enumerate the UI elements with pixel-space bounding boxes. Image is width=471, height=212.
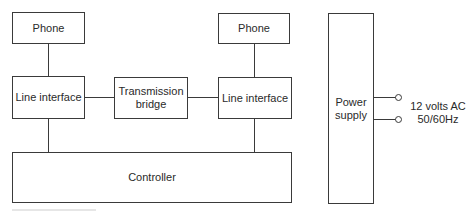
faint-underline-divider — [12, 209, 96, 211]
connector-phone-left-to-line-interface — [48, 44, 49, 76]
phone-right-box: Phone — [218, 13, 290, 44]
line-interface-left-box: Line interface — [12, 76, 85, 119]
phone-right-label: Phone — [238, 22, 270, 35]
connector-bridge-to-line-interface-right — [188, 97, 218, 98]
connector-line-interface-left-to-controller — [48, 119, 49, 153]
phone-left-label: Phone — [33, 22, 65, 35]
power-input-voltage: 12 volts AC — [406, 100, 470, 113]
connector-line-interface-left-to-bridge — [85, 97, 114, 98]
line-interface-right-box: Line interface — [218, 77, 292, 119]
connector-line-interface-right-to-controller — [254, 119, 255, 153]
power-terminal-wire-2 — [374, 119, 396, 120]
power-supply-box: Power supply — [328, 13, 374, 204]
controller-label: Controller — [128, 171, 176, 184]
line-interface-right-label: Line interface — [222, 92, 288, 105]
line-interface-left-label: Line interface — [15, 91, 81, 104]
power-terminal-1-icon — [395, 94, 402, 101]
power-terminal-wire-1 — [374, 97, 396, 98]
transmission-bridge-box: Transmission bridge — [114, 77, 188, 119]
power-input-frequency: 50/60Hz — [406, 113, 470, 126]
transmission-bridge-label: Transmission bridge — [119, 85, 184, 111]
power-input-label: 12 volts AC 50/60Hz — [406, 100, 470, 126]
connector-phone-right-to-line-interface — [254, 44, 255, 77]
controller-box: Controller — [12, 152, 292, 203]
phone-left-box: Phone — [12, 12, 85, 44]
power-supply-label: Power supply — [335, 96, 367, 122]
power-terminal-2-icon — [395, 116, 402, 123]
